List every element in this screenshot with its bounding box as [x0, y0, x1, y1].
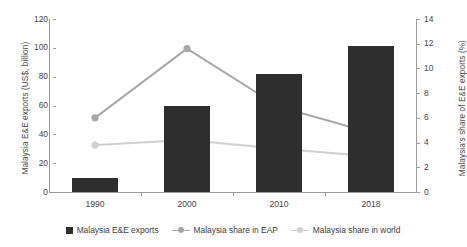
y-axis-left-ticks: 020406080100120 — [18, 0, 48, 247]
x-axis-tick-mark — [233, 192, 234, 196]
x-axis-tick-label-2000: 2000 — [157, 200, 217, 209]
legend-line-marker-swatch-icon — [172, 227, 190, 234]
marker-malaysia-share-in-eap-1990 — [91, 114, 98, 121]
y-axis-right-tick-label: 12 — [424, 39, 433, 47]
y-axis-left-tick-label: 40 — [39, 130, 48, 138]
y-axis-left-tick-label: 120 — [34, 15, 48, 23]
y-axis-left-tick-label: 100 — [34, 43, 48, 51]
legend-item-label: Malaysia E&E exports — [77, 226, 159, 234]
x-axis-tick-mark — [325, 192, 326, 196]
y-axis-right-title: Malaysia's share of E&E exports (%) — [459, 19, 467, 197]
y-axis-left-tick-label: 60 — [39, 101, 48, 109]
bar-1990 — [72, 178, 118, 192]
bar-2010 — [256, 74, 302, 192]
y-axis-left-tick-label: 20 — [39, 159, 48, 167]
y-axis-right-tick-label: 8 — [424, 89, 429, 97]
x-axis-tick-label-2018: 2018 — [341, 200, 401, 209]
marker-malaysia-share-in-eap-2000 — [183, 45, 190, 52]
y-axis-right-tick-label: 2 — [424, 163, 429, 171]
legend-line-marker-swatch-icon — [291, 227, 309, 234]
legend-item-2[interactable]: Malaysia share in world — [291, 226, 401, 234]
y-axis-right-tick-label: 14 — [424, 15, 433, 23]
marker-malaysia-share-in-world-1990 — [91, 141, 98, 148]
bar-2018 — [348, 46, 394, 192]
chart-legend: Malaysia E&E exportsMalaysia share in EA… — [0, 226, 466, 234]
x-axis-tick-label-1990: 1990 — [65, 200, 125, 209]
y-axis-left-tick-label: 0 — [43, 188, 48, 196]
y-axis-right-ticks: 02468101214 — [424, 0, 454, 247]
x-axis-tick-label-2010: 2010 — [249, 200, 309, 209]
line-malaysia-share-in-eap — [95, 49, 371, 133]
legend-item-0[interactable]: Malaysia E&E exports — [66, 226, 159, 234]
y-axis-left-tick-label: 80 — [39, 72, 48, 80]
y-axis-right-tick-label: 0 — [424, 188, 429, 196]
y-axis-right-tick-label: 4 — [424, 138, 429, 146]
y-axis-right-tick-label: 10 — [424, 64, 433, 72]
line-malaysia-share-in-world — [95, 140, 371, 156]
legend-item-1[interactable]: Malaysia share in EAP — [172, 226, 278, 234]
x-axis-tick-mark — [141, 192, 142, 196]
plot-area — [49, 19, 417, 192]
legend-item-label: Malaysia share in world — [313, 226, 401, 234]
y-axis-right-tick-label: 6 — [424, 113, 429, 121]
bar-2000 — [164, 106, 210, 193]
legend-square-swatch-icon — [66, 227, 73, 234]
x-axis-tick-labels: 1990200020102018 — [49, 196, 417, 212]
legend-item-label: Malaysia share in EAP — [194, 226, 278, 234]
